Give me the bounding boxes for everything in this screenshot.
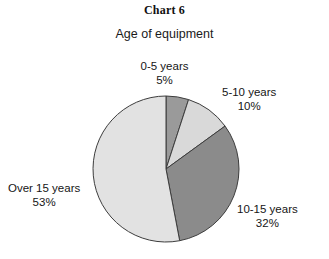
- pie-label-10-15-years-name: 10-15 years: [237, 203, 298, 217]
- chart-title: Chart 6: [0, 3, 329, 18]
- pie-label-over-15-years: Over 15 years 53%: [8, 182, 80, 209]
- pie-label-over-15-years-percent: 53%: [8, 196, 80, 210]
- pie-svg: [92, 95, 240, 243]
- pie-chart: [92, 95, 240, 243]
- chart-subtitle: Age of equipment: [0, 27, 329, 41]
- pie-label-10-15-years: 10-15 years 32%: [237, 203, 298, 230]
- pie-label-10-15-years-percent: 32%: [237, 217, 298, 231]
- chart-canvas: Chart 6 Age of equipment 0-5 years 5% 5-…: [0, 0, 329, 259]
- pie-label-over-15-years-name: Over 15 years: [8, 182, 80, 196]
- pie-label-0-5-years-percent: 5%: [0, 74, 329, 88]
- pie-label-5-10-years-percent: 10%: [222, 100, 276, 114]
- pie-label-5-10-years-name: 5-10 years: [222, 86, 276, 100]
- pie-label-0-5-years-name: 0-5 years: [0, 60, 329, 74]
- pie-label-0-5-years: 0-5 years 5%: [0, 60, 329, 87]
- pie-label-5-10-years: 5-10 years 10%: [222, 86, 276, 113]
